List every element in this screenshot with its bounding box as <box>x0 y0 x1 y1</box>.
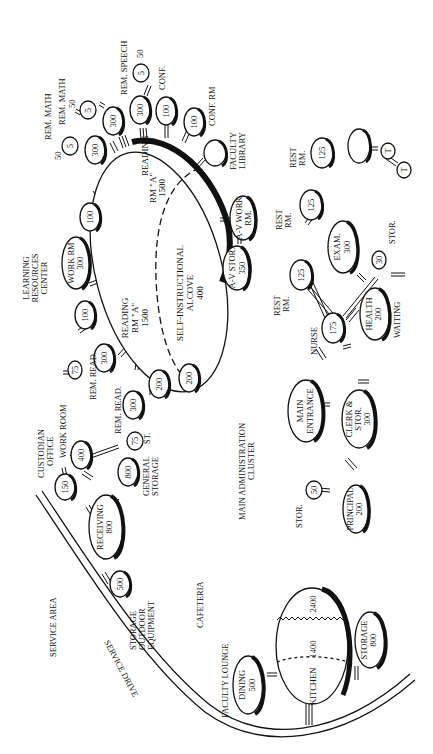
kitchen-1400: 1400 <box>308 641 318 658</box>
clerk-area: 300 <box>362 413 372 426</box>
rem-math-1-300: 300 <box>90 144 100 157</box>
rest-room-1-node[interactable]: 125 <box>290 260 313 290</box>
outdoor-storage-node[interactable]: 500 <box>110 571 131 597</box>
admin-cluster-label-2: CLUSTER <box>246 442 256 480</box>
satellite-100-b[interactable]: 100 <box>75 301 96 329</box>
rem-read-1-75: 75 <box>70 366 80 375</box>
rem-math-2-50: 50 <box>67 100 77 109</box>
faculty-library-label-2: LIBRARY <box>237 132 247 169</box>
satellite-100-a[interactable]: 100 <box>80 203 101 231</box>
rest-room-2-node[interactable]: 125 <box>300 190 323 220</box>
space-adjacency-diagram: SERVICE DRIVE <box>0 0 433 754</box>
health-area: 200 <box>373 308 383 321</box>
work-room-service-value: 400 <box>76 449 86 462</box>
rest-room-1-value: 125 <box>296 269 306 282</box>
clerk-storage-node[interactable]: CLERK & STOR. 300 <box>342 390 376 448</box>
av-stor-area: 350 <box>237 262 247 275</box>
principal-storage-value: 50 <box>309 486 319 495</box>
work-room-node[interactable]: WORK RM 300 <box>62 237 90 289</box>
av-work-label-2: RM. <box>243 210 253 225</box>
rem-math-2-300: 300 <box>108 115 118 128</box>
satellite-200-b-value: 200 <box>184 372 194 385</box>
conf-100-value: 100 <box>161 105 171 118</box>
rem-read-1-300: 300 <box>99 352 109 365</box>
dining-node[interactable]: DINING 500 <box>233 656 264 714</box>
kitchen-label: KITCHEN <box>308 668 318 705</box>
exam-node[interactable]: EXAM. 300 <box>328 221 358 273</box>
reading-a-main-label-3: 1500 <box>140 309 150 328</box>
service-area-label: SERVICE AREA <box>48 597 58 657</box>
main-entrance-label-2: ENTRANCE <box>305 388 315 433</box>
rem-math-2-5: 5 <box>83 108 93 112</box>
reading-a-main-label-2: RM "A" <box>130 303 140 333</box>
general-storage-node[interactable]: 800 <box>118 458 139 486</box>
toilet-1-node[interactable]: T <box>381 143 395 159</box>
work-room-service-node[interactable]: 400 <box>71 441 92 469</box>
av-stor-label: A-V STOR. <box>227 248 237 289</box>
av-work-room-node[interactable]: A-V WORK RM. <box>230 196 256 240</box>
satellite-200-b[interactable]: 200 <box>179 364 200 392</box>
conf-rm-label: CONF. RM <box>207 86 217 126</box>
rest-room-3-value: 125 <box>317 147 327 160</box>
satellite-100-a-value: 100 <box>85 211 95 224</box>
rem-math-1-label: REM. MATH <box>43 93 53 140</box>
rem-read-2-group[interactable]: 300 75 <box>123 391 144 450</box>
conf-label: CONF. <box>157 66 167 90</box>
reading-a-main-label: READING <box>120 297 130 338</box>
toilet-2-label: T <box>399 167 409 173</box>
rem-math-1-group[interactable]: 5 300 <box>62 136 106 164</box>
exam-label: EXAM. <box>332 233 342 260</box>
satellite-100-b-value: 100 <box>80 309 90 322</box>
receiving-node[interactable]: RECEIVING 800 <box>89 495 123 559</box>
exam-area: 300 <box>342 241 352 254</box>
principal-node[interactable]: PRINCIPAL 200 <box>343 485 369 533</box>
st-label: ST. <box>142 433 152 444</box>
conf-100-node[interactable]: 100 <box>156 97 177 125</box>
rem-speech-50: 50 <box>135 50 145 59</box>
rest-room-3-label-2: RM. <box>297 151 307 166</box>
rem-math-1-5: 5 <box>65 144 75 148</box>
kitchen-2400: 2400 <box>308 596 318 613</box>
rest-room-1-label-2: RM. <box>281 297 291 312</box>
rem-math-2-group[interactable]: 5 300 <box>80 101 124 135</box>
cafeteria-storage-area: 800 <box>368 634 378 647</box>
conf-rm-100-node[interactable]: 100 <box>184 108 205 136</box>
exam-storage-node[interactable]: 30 <box>372 251 386 269</box>
reading-a-top-label: READING <box>140 135 150 176</box>
general-storage-label-2: STORAGE <box>150 457 160 496</box>
nurse-value: 175 <box>328 322 338 335</box>
nurse-label: NURSE <box>309 327 319 355</box>
lrc-cluster-label-3: CENTER <box>39 261 49 294</box>
exam-storage-value: 30 <box>374 256 384 265</box>
rem-math-2-label: REM. MATH <box>57 78 67 125</box>
main-entrance-node[interactable]: MAIN ENTRANCE <box>288 380 324 442</box>
main-entrance-label-1: MAIN <box>295 400 305 423</box>
kitchen-node[interactable]: KITCHEN 1400 2400 <box>276 588 350 705</box>
rem-math-1-50: 50 <box>53 152 63 161</box>
faculty-lounge-label: FACULTY LOUNGE <box>220 643 230 718</box>
principal-storage-node[interactable]: 50 <box>306 481 322 499</box>
alcove-label-2: ALCOVE <box>185 274 195 311</box>
av-storage-node[interactable]: A-V STOR. 350 <box>223 246 251 290</box>
toilet-2-node[interactable]: T <box>397 162 411 178</box>
rest-room-3-node[interactable]: 125 <box>311 138 334 168</box>
rem-speech-5: 5 <box>136 71 146 75</box>
custodian-office-node[interactable]: 150 <box>55 474 76 500</box>
rem-read-2-300: 300 <box>128 399 138 412</box>
cafeteria-storage-node[interactable]: STORAGE 800 <box>355 612 386 668</box>
unlabeled-room-node[interactable] <box>348 129 371 163</box>
satellite-200-a[interactable]: 200 <box>149 370 170 398</box>
rem-speech-label: REM. SPEECH <box>119 41 129 95</box>
work-room-service-label: WORK ROOM <box>58 404 68 458</box>
nurse-node[interactable]: 175 <box>322 313 345 343</box>
principal-storage-label: STOR. <box>294 504 304 528</box>
faculty-library-node[interactable] <box>204 140 227 166</box>
alcove-label-3: 400 <box>195 286 205 300</box>
principal-area: 200 <box>354 503 364 516</box>
rem-read-1-label: REM. READ. <box>88 352 98 400</box>
rem-speech-300: 300 <box>135 104 145 117</box>
toilet-1-label: T <box>383 148 393 154</box>
outdoor-storage-value: 500 <box>115 578 125 591</box>
custodian-label-2: OFFICE <box>45 437 55 466</box>
health-node[interactable]: HEALTH 200 <box>360 288 390 340</box>
